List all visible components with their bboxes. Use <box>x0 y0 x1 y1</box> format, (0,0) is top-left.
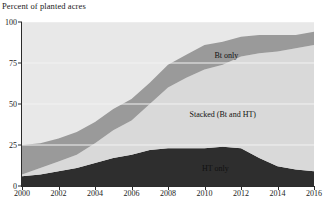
x-tick-label: 2008 <box>160 189 176 198</box>
series-label-ht-only: HT only <box>202 163 229 172</box>
y-tick-mark <box>18 63 22 64</box>
plot-area <box>22 22 314 186</box>
x-tick-mark <box>278 186 279 190</box>
x-tick-label: 2014 <box>270 189 286 198</box>
area-series-group <box>22 32 314 186</box>
y-tick-mark <box>18 22 22 23</box>
y-tick-label: 100 <box>0 18 17 27</box>
plot-svg <box>22 22 314 186</box>
series-label-bt-only: Bt only <box>215 50 239 59</box>
y-tick-mark <box>18 104 22 105</box>
x-tick-label: 2006 <box>124 189 140 198</box>
x-tick-mark <box>168 186 169 190</box>
x-tick-mark <box>314 186 315 190</box>
x-tick-mark <box>59 186 60 190</box>
y-tick-label: 75 <box>0 59 17 68</box>
y-axis-line <box>21 22 22 187</box>
x-tick-label: 2002 <box>51 189 67 198</box>
y-tick-label: 25 <box>0 141 17 150</box>
series-label-stacked-bt-and-ht: Stacked (Bt and HT) <box>190 109 256 118</box>
x-tick-mark <box>22 186 23 190</box>
stacked-area-chart: Percent of planted acres 0255075100 2000… <box>0 0 325 204</box>
y-tick-mark <box>18 145 22 146</box>
x-tick-mark <box>132 186 133 190</box>
x-tick-label: 2010 <box>197 189 213 198</box>
x-tick-mark <box>241 186 242 190</box>
x-tick-label: 2000 <box>14 189 30 198</box>
y-axis-title: Percent of planted acres <box>2 1 86 11</box>
x-tick-label: 2016 <box>306 189 322 198</box>
y-tick-label: 50 <box>0 100 17 109</box>
x-tick-label: 2012 <box>233 189 249 198</box>
x-tick-mark <box>205 186 206 190</box>
x-tick-label: 2004 <box>87 189 103 198</box>
x-tick-mark <box>95 186 96 190</box>
